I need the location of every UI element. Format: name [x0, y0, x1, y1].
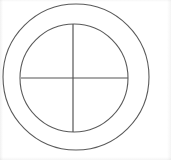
- figure-container: [0, 0, 171, 160]
- circle-crosshair-diagram: [0, 0, 171, 160]
